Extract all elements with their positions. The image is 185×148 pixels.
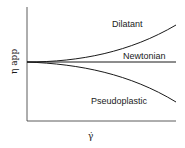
dilatant-label: Dilatant [112,19,143,29]
pseudoplastic-label: Pseudoplastic [91,96,148,106]
y-axis-label: η app [9,49,19,74]
newtonian-label: Newtonian [123,51,166,61]
x-axis-label: γ̇ [88,131,93,141]
rheology-chart: Dilatant Newtonian Pseudoplastic η app γ… [0,0,185,148]
